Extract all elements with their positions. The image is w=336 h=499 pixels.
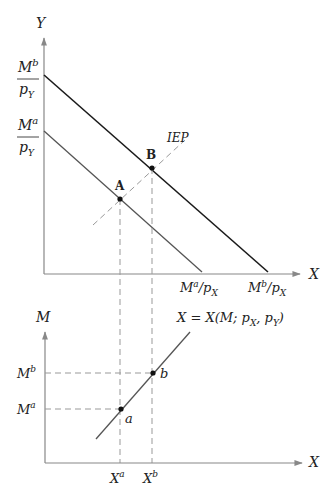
x-axis-bottom-label: X — [308, 454, 320, 470]
iep-label: IEP — [166, 131, 190, 145]
top-panel: Y X IEP A B Mb pY Ma pY Ma/pX Mb/pX — [17, 15, 320, 463]
point-a-lower-label: a — [125, 411, 133, 426]
income-expansion-path — [93, 140, 185, 225]
income-expansion-diagram: Y X IEP A B Mb pY Ma pY Ma/pX Mb/pX — [0, 0, 336, 499]
ma-label: Ma — [16, 400, 36, 417]
y-axis-label: Y — [36, 15, 47, 31]
y-intercept-a-label: Ma pY — [17, 115, 39, 158]
svg-text:pY: pY — [19, 139, 35, 158]
svg-text:Ma: Ma — [17, 115, 38, 133]
point-a-marker — [117, 196, 122, 201]
point-a-lower-marker — [118, 406, 123, 411]
svg-text:Mb: Mb — [17, 57, 39, 75]
budget-line-b — [44, 75, 268, 272]
x-intercept-b-label: Mb/pX — [247, 279, 287, 298]
m-axis-label: M — [35, 309, 51, 325]
budget-line-a — [44, 131, 202, 272]
engel-curve — [96, 332, 190, 439]
point-a-label: A — [114, 179, 125, 193]
engel-curve-label: X = X(M; pX, pY) — [176, 310, 284, 328]
mb-label: Mb — [16, 364, 36, 381]
point-b-lower-marker — [150, 370, 155, 375]
svg-text:pY: pY — [19, 81, 35, 100]
bottom-panel: M X X = X(M; pX, pY) a b Mb Ma Xa Xb — [16, 309, 320, 486]
xa-label: Xa — [109, 469, 125, 486]
point-b-marker — [149, 165, 154, 170]
x-intercept-a-label: Ma/pX — [179, 279, 218, 298]
point-b-lower-label: b — [160, 366, 168, 381]
point-b-label: B — [146, 148, 156, 162]
xb-label: Xb — [142, 469, 158, 486]
x-axis-label: X — [308, 266, 320, 282]
y-intercept-b-label: Mb pY — [17, 57, 39, 100]
